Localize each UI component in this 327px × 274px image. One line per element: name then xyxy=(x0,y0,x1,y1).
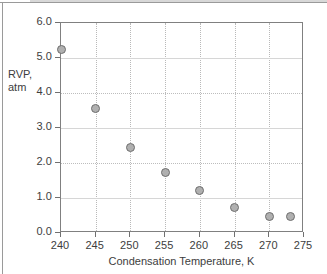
x-axis-tick-marks xyxy=(60,232,303,238)
data-point xyxy=(265,212,274,221)
y-axis-tick xyxy=(55,92,60,93)
x-axis-tick xyxy=(303,232,304,237)
grid-line-vertical xyxy=(269,23,270,231)
data-point xyxy=(286,212,295,221)
x-axis-tick xyxy=(199,232,200,237)
y-axis-tick-label: 2.0 xyxy=(14,155,52,167)
data-point xyxy=(161,168,170,177)
page-frame-left-rule xyxy=(2,2,3,274)
data-point xyxy=(126,143,135,152)
grid-line-horizontal xyxy=(61,163,302,164)
y-axis-tick-label: 1.0 xyxy=(14,190,52,202)
page-frame-top-rule xyxy=(0,2,327,3)
x-axis-tick xyxy=(60,232,61,237)
plot-area xyxy=(60,22,303,232)
x-axis-tick xyxy=(268,232,269,237)
grid-line-vertical xyxy=(165,23,166,231)
x-axis-tick xyxy=(164,232,165,237)
x-axis-tick-label: 275 xyxy=(283,239,323,251)
y-axis-tick-label: 6.0 xyxy=(14,15,52,27)
x-axis-tick xyxy=(234,232,235,237)
grid-line-horizontal xyxy=(61,58,302,59)
y-axis-tick-label: 4.0 xyxy=(14,85,52,97)
grid-line-vertical xyxy=(235,23,236,231)
data-point xyxy=(91,104,100,113)
grid-line-vertical xyxy=(200,23,201,231)
y-axis-tick xyxy=(55,22,60,23)
y-axis-tick xyxy=(55,127,60,128)
data-point xyxy=(230,203,239,212)
y-axis-tick-label: 0.0 xyxy=(14,225,52,237)
y-axis-tick xyxy=(55,197,60,198)
x-axis-title: Condensation Temperature, K xyxy=(60,255,303,267)
y-axis-tick xyxy=(55,162,60,163)
y-axis-tick-marks xyxy=(55,22,61,232)
x-axis-tick xyxy=(95,232,96,237)
x-axis-tick xyxy=(129,232,130,237)
grid-line-horizontal xyxy=(61,128,302,129)
data-point xyxy=(195,186,204,195)
grid-line-vertical xyxy=(130,23,131,231)
y-axis-tick-label: 5.0 xyxy=(14,50,52,62)
y-axis-tick-label: 3.0 xyxy=(14,120,52,132)
y-axis-tick xyxy=(55,232,60,233)
y-axis-tick xyxy=(55,57,60,58)
grid-line-horizontal xyxy=(61,93,302,94)
y-axis-title-line1: RVP, xyxy=(8,68,52,81)
grid-line-horizontal xyxy=(61,198,302,199)
grid-line-vertical xyxy=(96,23,97,231)
figure-root: RVP, atm Condensation Temperature, K 240… xyxy=(0,0,327,274)
